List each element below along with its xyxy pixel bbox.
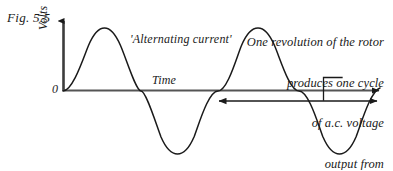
annotation-line: One revolution of the rotor: [247, 36, 384, 50]
origin-label: 0: [52, 83, 58, 95]
annotation-line: output from: [247, 158, 384, 171]
annotation-line: produces one cycle: [247, 77, 384, 91]
x-axis-label: Time: [152, 74, 176, 86]
alternating-current-label: 'Alternating current': [130, 33, 232, 45]
figure-ac-waveform: Fig. 5.5 Volts 0 Time 'Alternating curre…: [0, 0, 393, 170]
annotation-line: of a.c. voltage: [247, 117, 384, 131]
rotor-annotation-block: One revolution of the rotor produces one…: [247, 9, 384, 170]
y-axis-label: Volts: [37, 6, 49, 30]
